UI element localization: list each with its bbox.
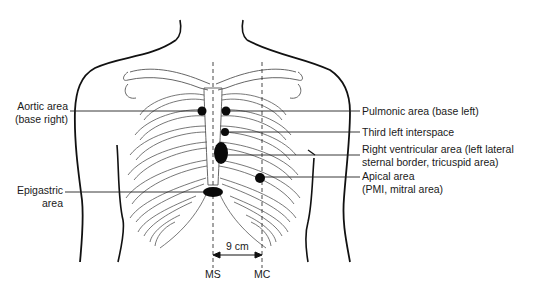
apical-label: Apical area (PMI, mitral area) [362,170,443,195]
epigastric-label-line2: area [8,197,63,210]
third-left-label: Third left interspace [362,126,454,139]
aortic-label-line2: (base right) [12,113,68,126]
torso-outline-right [247,40,350,262]
right-ventricular-label-line1: Right ventricular area (left lateral [362,143,514,156]
aortic-label: Aortic area (base right) [12,100,68,125]
pulmonic-label: Pulmonic area (base left) [362,105,479,118]
mc-marker-label: MC [254,268,270,280]
leader-lines [65,111,360,192]
ribs-right [218,94,300,248]
distance-label: 9 cm [226,240,249,252]
right-ventricular-label: Right ventricular area (left lateral ste… [362,143,514,168]
epigastric-label: Epigastric area [8,184,63,209]
ribs-left [126,94,208,248]
aortic-label-line1: Aortic area [12,100,68,113]
chest-auscultation-diagram: Aortic area (base right) Epigastric area… [0,0,533,292]
right-ventricular-label-line2: sternal border, tricuspid area) [362,156,514,169]
torso-outline-left [75,40,176,262]
pulmonic-point [222,107,231,116]
apical-point [255,173,265,183]
apical-label-line2: (PMI, mitral area) [362,183,443,196]
epigastric-point [203,187,223,197]
measurement-arrow [213,252,262,258]
third-left-point [221,128,229,136]
ms-marker-label: MS [205,268,221,280]
epigastric-label-line1: Epigastric [8,184,63,197]
pulmonic-label-line1: Pulmonic area (base left) [362,105,479,118]
third-left-label-line1: Third left interspace [362,126,454,139]
right-ventricular-point [214,142,228,164]
apical-label-line1: Apical area [362,170,443,183]
aortic-point [198,107,207,116]
